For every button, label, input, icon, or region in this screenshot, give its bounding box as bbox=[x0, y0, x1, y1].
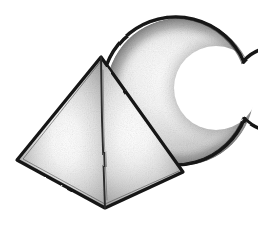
sketch-canvas: Pencil sketch of a pyramid and a crescen… bbox=[0, 0, 258, 225]
pyramid-and-crescent-illustration bbox=[0, 0, 258, 225]
